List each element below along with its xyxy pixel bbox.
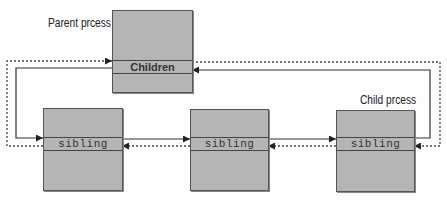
sibling-process-box-2: sibling xyxy=(190,109,269,191)
sibling-field-1: sibling xyxy=(44,137,122,151)
parent-process-label: Parent prcess xyxy=(48,16,111,30)
sibling-process-box-3: sibling xyxy=(336,110,415,192)
sibling-process-box-1: sibling xyxy=(43,108,123,191)
process-tree-diagram: Parent prcess Child prcess Children sibl… xyxy=(0,0,447,200)
parent-process-box: Children xyxy=(112,10,193,93)
sibling-field-2: sibling xyxy=(191,137,268,151)
children-field: Children xyxy=(113,60,192,74)
sibling-field-3: sibling xyxy=(337,137,414,151)
child-process-label: Child prcess xyxy=(360,93,416,107)
